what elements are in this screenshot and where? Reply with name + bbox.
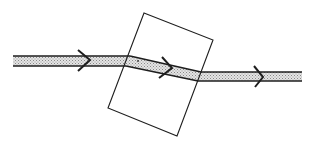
entry-dot-marker — [137, 60, 139, 62]
incident-ray-fill — [13, 56, 130, 66]
refraction-diagram — [0, 0, 311, 146]
emergent-ray-fill — [198, 72, 302, 81]
beam-fills — [13, 56, 302, 81]
